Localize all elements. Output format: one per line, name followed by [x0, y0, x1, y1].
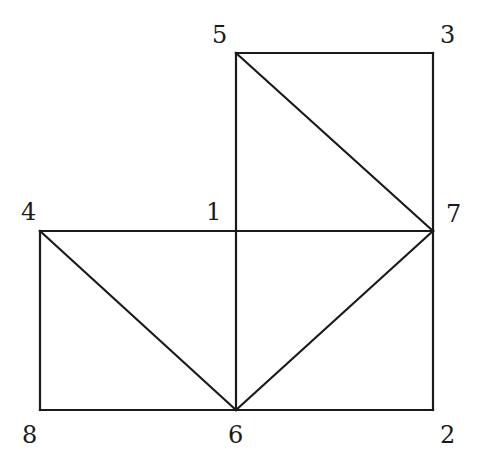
node-label-7: 7: [446, 200, 461, 228]
edge-6-7: [236, 231, 433, 410]
node-label-1: 1: [206, 198, 221, 226]
graph-edges: [40, 53, 433, 410]
graph-diagram: 12345678: [0, 0, 484, 467]
edge-5-7: [236, 53, 433, 231]
node-label-8: 8: [22, 421, 37, 449]
node-label-2: 2: [440, 421, 455, 449]
node-label-3: 3: [440, 21, 455, 49]
node-label-5: 5: [212, 21, 227, 49]
node-label-6: 6: [228, 421, 243, 449]
graph-node-labels: 12345678: [21, 21, 461, 449]
edge-4-6: [40, 231, 236, 410]
node-label-4: 4: [21, 198, 36, 226]
